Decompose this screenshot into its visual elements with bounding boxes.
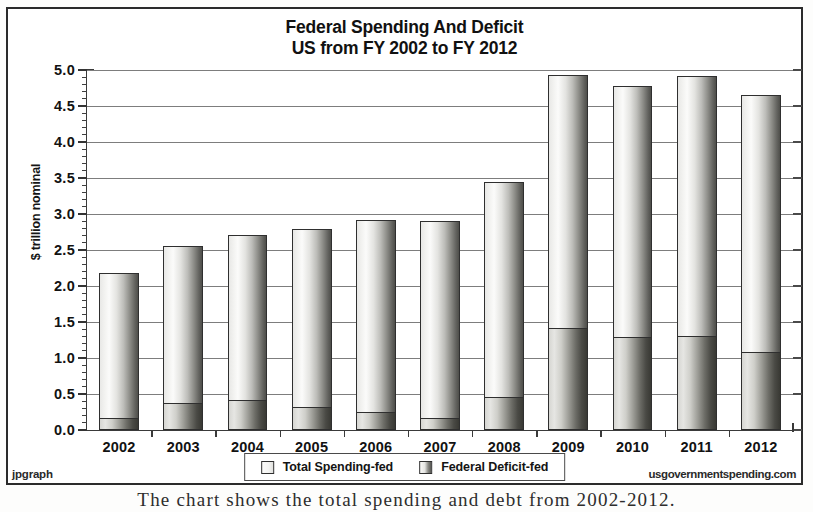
x-axis-label: 2010	[616, 439, 649, 455]
y-axis-minor-tick	[82, 336, 87, 337]
y-axis-tick-right	[793, 321, 802, 322]
y-axis-minor-tick	[82, 127, 87, 128]
y-axis-minor-tick	[82, 221, 87, 222]
bar-group[interactable]: 2010	[613, 70, 653, 430]
y-axis-minor-tick	[82, 170, 87, 171]
y-axis-minor-tick	[82, 422, 87, 423]
bar-federal-deficit[interactable]	[356, 412, 396, 430]
y-axis-tick-right	[793, 357, 802, 358]
y-axis-minor-tick	[82, 199, 87, 200]
plot-area: 0.00.51.01.52.02.53.03.54.04.55.02002200…	[86, 70, 793, 431]
y-axis-minor-tick	[82, 350, 87, 351]
y-axis-minor-tick	[82, 192, 87, 193]
x-axis-tick	[151, 430, 152, 437]
bar-total-spending[interactable]	[356, 220, 396, 430]
watermark-jpgraph: jpgraph	[12, 468, 53, 480]
y-axis-label: 3.5	[54, 170, 75, 186]
y-axis-minor-tick	[82, 98, 87, 99]
bar-federal-deficit[interactable]	[228, 400, 268, 430]
legend-item[interactable]: Federal Deficit-fed	[419, 460, 548, 474]
bar-group[interactable]: 2008	[484, 70, 524, 430]
y-axis-minor-tick	[82, 149, 87, 150]
x-axis-tick	[600, 430, 601, 437]
bar-group[interactable]: 2002	[99, 70, 139, 430]
y-axis-minor-tick	[82, 156, 87, 157]
bar-group[interactable]: 2009	[548, 70, 588, 430]
x-axis-tick	[729, 430, 730, 437]
y-axis-tick-right	[793, 177, 802, 178]
y-axis-minor-tick	[82, 372, 87, 373]
bar-total-spending[interactable]	[99, 273, 139, 430]
chart-subtitle: US from FY 2002 to FY 2012	[8, 38, 801, 59]
y-axis-minor-tick	[82, 113, 87, 114]
y-axis-tick-right	[793, 105, 802, 106]
bar-group[interactable]: 2012	[741, 70, 781, 430]
legend-swatch-total	[261, 461, 274, 474]
y-axis-minor-tick	[82, 228, 87, 229]
y-axis-tick-right	[793, 285, 802, 286]
bar-federal-deficit[interactable]	[420, 418, 460, 430]
bar-group[interactable]: 2005	[292, 70, 332, 430]
y-axis-tick	[78, 249, 87, 250]
y-axis-label: 5.0	[54, 62, 75, 78]
y-axis-minor-tick	[82, 91, 87, 92]
bar-federal-deficit[interactable]	[741, 352, 781, 430]
y-axis-minor-tick	[82, 415, 87, 416]
y-axis-tick	[78, 105, 87, 106]
y-axis-minor-tick	[82, 401, 87, 402]
y-axis-minor-tick	[82, 257, 87, 258]
bar-group[interactable]: 2006	[356, 70, 396, 430]
x-axis-tick	[344, 430, 345, 437]
x-axis-tick	[280, 430, 281, 437]
chart-title-block: Federal Spending And Deficit US from FY …	[8, 17, 801, 58]
bar-federal-deficit[interactable]	[677, 336, 717, 430]
bar-group[interactable]: 2003	[163, 70, 203, 430]
y-axis-tick-right	[793, 429, 802, 430]
bar-federal-deficit[interactable]	[292, 407, 332, 430]
y-axis-label: 2.5	[54, 242, 75, 258]
chart-frame: Federal Spending And Deficit US from FY …	[6, 7, 803, 485]
y-axis-minor-tick	[82, 365, 87, 366]
y-axis-label: 1.5	[54, 314, 75, 330]
y-axis-minor-tick	[82, 386, 87, 387]
bar-federal-deficit[interactable]	[613, 337, 653, 430]
bar-federal-deficit[interactable]	[163, 403, 203, 430]
y-axis-label: 4.5	[54, 98, 75, 114]
y-axis-tick	[78, 69, 87, 70]
bar-total-spending[interactable]	[420, 221, 460, 430]
y-axis-minor-tick	[82, 120, 87, 121]
bar-group[interactable]: 2011	[677, 70, 717, 430]
y-axis-minor-tick	[82, 84, 87, 85]
x-axis-tick	[408, 430, 409, 437]
bar-group[interactable]: 2004	[228, 70, 268, 430]
y-axis-tick-right	[793, 69, 802, 70]
y-axis-minor-tick	[82, 185, 87, 186]
legend-item[interactable]: Total Spending-fed	[261, 460, 393, 474]
x-axis-label: 2003	[167, 439, 200, 455]
y-axis-tick	[78, 141, 87, 142]
x-axis-label: 2011	[681, 439, 713, 455]
bar-federal-deficit[interactable]	[484, 397, 524, 430]
y-axis-minor-tick	[82, 314, 87, 315]
y-axis-minor-tick	[82, 235, 87, 236]
y-axis-tick-right	[793, 249, 802, 250]
watermark-source: usgovernmentspending.com	[648, 468, 796, 480]
bar-total-spending[interactable]	[292, 229, 332, 430]
x-axis-tick	[536, 430, 537, 437]
bar-total-spending[interactable]	[484, 182, 524, 430]
bar-federal-deficit[interactable]	[99, 418, 139, 430]
y-axis-label: 0.0	[54, 422, 75, 438]
y-axis-minor-tick	[82, 408, 87, 409]
bar-federal-deficit[interactable]	[548, 328, 588, 430]
y-axis-label: 4.0	[54, 134, 75, 150]
chart-legend: Total Spending-fedFederal Deficit-fed	[244, 453, 566, 481]
y-axis-minor-tick	[82, 379, 87, 380]
y-axis-minor-tick	[82, 329, 87, 330]
y-axis-tick-right	[793, 393, 802, 394]
x-axis-tick	[472, 430, 473, 437]
y-axis-minor-tick	[82, 242, 87, 243]
legend-label: Federal Deficit-fed	[441, 460, 548, 474]
y-axis-minor-tick	[82, 271, 87, 272]
bar-group[interactable]: 2007	[420, 70, 460, 430]
y-axis-minor-tick	[82, 264, 87, 265]
